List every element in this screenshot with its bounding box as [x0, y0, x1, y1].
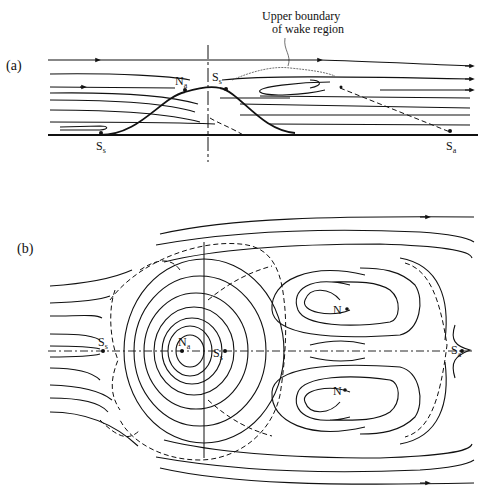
label-na-b: Na: [178, 335, 191, 351]
label-ss-center-b: Ss: [213, 346, 223, 362]
separation-line-upper: [208, 266, 272, 300]
panel-b-label: (b): [17, 241, 34, 257]
dividing-streamline-center: [210, 118, 245, 136]
label-sa-right-a: Sa: [446, 139, 457, 155]
na-point-b: [180, 349, 184, 353]
label-ss-left-a: Ss: [96, 139, 106, 155]
label-ss-top-a: Ss: [212, 70, 222, 86]
label-na-a: Na: [175, 74, 188, 90]
panel-a-label: (a): [6, 58, 22, 74]
wake-vortex-upper: [272, 258, 446, 340]
n-lower-point: [343, 388, 347, 392]
wake-annotation-line2: of wake region: [272, 22, 344, 36]
flow-topology-figure: (a) Upper boundary of wake region: [0, 0, 494, 497]
label-n-upper: N: [333, 303, 342, 317]
dividing-streamline-right: [340, 88, 450, 132]
panel-b: (b): [17, 217, 474, 484]
sa-right-point-a: [448, 129, 452, 133]
ss-center-point-b: [223, 349, 227, 353]
n-upper-point: [345, 307, 349, 311]
ss-left-point-a: [99, 131, 103, 135]
wake-annotation-line1: Upper boundary: [262, 9, 340, 23]
wake-vortex-lower: [272, 362, 446, 444]
label-ss-left-b: Ss: [98, 335, 108, 351]
annotation-leader-line: [285, 38, 289, 66]
streamlines-b-bottom: [50, 354, 474, 484]
label-n-lower: N: [333, 384, 342, 398]
streamlines-a: [48, 60, 472, 130]
label-sa-right-b: Sa: [451, 343, 462, 359]
ss-top-point-a: [224, 87, 228, 91]
panel-a: (a) Upper boundary of wake region: [6, 9, 478, 162]
left-saddle-boundary: [111, 290, 120, 410]
